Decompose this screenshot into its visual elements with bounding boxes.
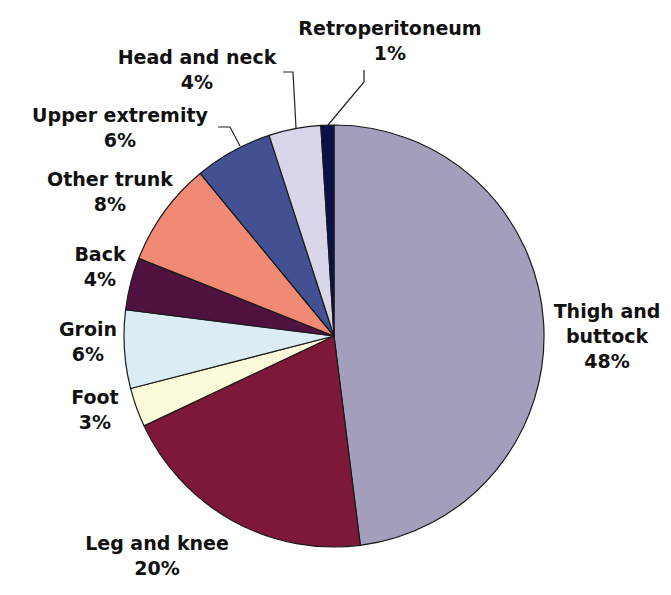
label-back: Back: [74, 243, 126, 265]
pct-upper-extremity: 6%: [104, 129, 136, 151]
label-upper-extremity: Upper extremity: [32, 104, 208, 126]
label-groin: Groin: [59, 318, 117, 340]
pie-slices: [124, 125, 544, 547]
label-thigh-buttock-2: buttock: [566, 325, 649, 347]
pie-slice-thigh-and-buttock: [334, 125, 544, 545]
label-thigh-buttock-1: Thigh and: [554, 300, 661, 322]
label-foot: Foot: [71, 386, 118, 408]
leader-line-retro: [328, 70, 364, 125]
pct-leg-knee: 20%: [134, 557, 179, 579]
leader-line-upper: [218, 127, 240, 146]
pct-thigh-buttock: 48%: [584, 350, 629, 372]
pct-foot: 3%: [79, 411, 111, 433]
pie-chart: Retroperitoneum 1% Head and neck 4% Uppe…: [0, 0, 671, 595]
leader-line-head: [283, 72, 296, 128]
label-leg-knee: Leg and knee: [85, 532, 229, 554]
label-other-trunk: Other trunk: [47, 168, 173, 190]
label-head-neck: Head and neck: [118, 46, 277, 68]
pct-other-trunk: 8%: [94, 193, 126, 215]
pct-back: 4%: [84, 268, 116, 290]
pct-retroperitoneum: 1%: [374, 42, 406, 64]
pct-head-neck: 4%: [181, 71, 213, 93]
pct-groin: 6%: [72, 343, 104, 365]
label-retroperitoneum: Retroperitoneum: [298, 17, 481, 39]
